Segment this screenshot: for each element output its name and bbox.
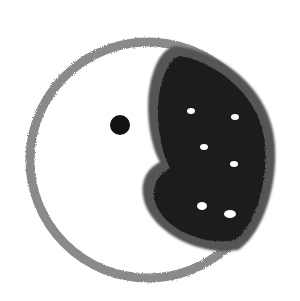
sketch-canvas (0, 0, 300, 301)
dark-shape (154, 56, 265, 241)
black-dot (110, 115, 130, 135)
